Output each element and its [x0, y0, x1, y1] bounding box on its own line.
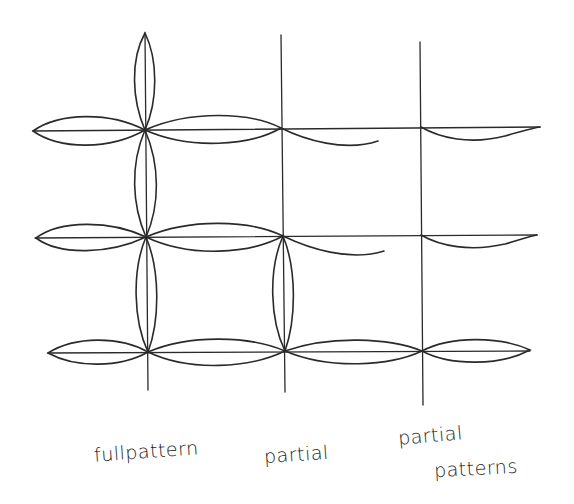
label-partial-patterns-line2: patterns [433, 455, 518, 481]
grid-lines [33, 33, 540, 405]
partial-curve-row1 [281, 128, 378, 145]
partial-patterns-curves [421, 127, 540, 362]
vertical-line-1 [145, 33, 148, 390]
partial-curve-row2 [283, 236, 384, 255]
partial-curve-col3-row2 [421, 235, 537, 248]
partial-curve-col3-row1 [421, 127, 540, 140]
petal-grid-diagram [0, 0, 574, 504]
label-partial: partial [263, 441, 329, 467]
partial-pattern-curves [273, 128, 422, 364]
vertical-line-2 [281, 35, 285, 392]
full-pattern-petals [33, 33, 285, 365]
